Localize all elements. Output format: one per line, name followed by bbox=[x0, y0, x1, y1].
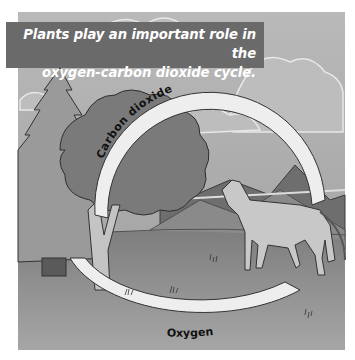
title-line-1: Plants play an important role in the bbox=[6, 25, 256, 63]
title-line-2: oxygen-carbon dioxide cycle. bbox=[6, 63, 256, 82]
title-banner: Plants play an important role in the oxy… bbox=[6, 22, 264, 68]
oxygen-label: Oxygen bbox=[167, 325, 214, 340]
